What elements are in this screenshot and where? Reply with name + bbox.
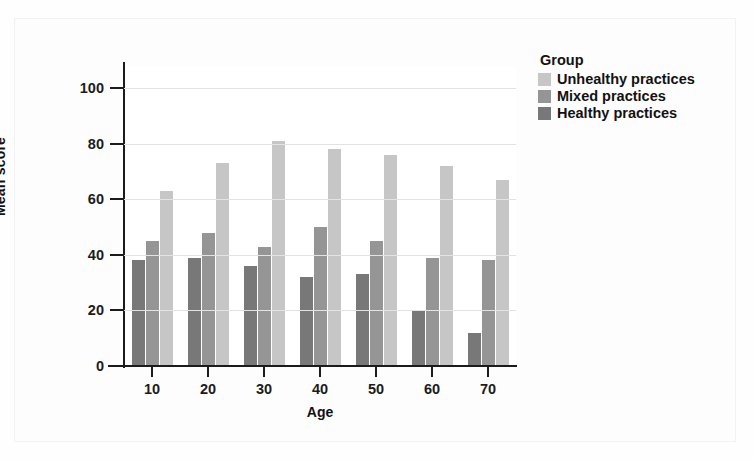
chart-figure: 100806040200 10203040506070 Mean score A… — [0, 0, 753, 462]
bar — [496, 180, 509, 366]
y-axis-line — [123, 62, 125, 368]
bar — [160, 191, 173, 366]
x-tick-label: 10 — [124, 381, 180, 397]
x-tick-label: 30 — [236, 381, 292, 397]
legend-swatch-icon — [538, 90, 551, 103]
bar — [384, 155, 397, 366]
y-tick-label: 40 — [52, 248, 104, 263]
gridline — [124, 255, 516, 256]
bar — [258, 247, 271, 366]
y-tick-mark — [110, 254, 124, 256]
y-tick-mark — [110, 143, 124, 145]
bar — [426, 258, 439, 366]
x-tick-label: 20 — [180, 381, 236, 397]
y-tick-mark — [110, 198, 124, 200]
bar — [440, 166, 453, 366]
x-axis-label: Age — [124, 404, 516, 420]
bar — [300, 277, 313, 366]
bar — [482, 260, 495, 366]
y-tick-label: 80 — [52, 137, 104, 152]
legend-title: Group — [540, 52, 738, 68]
bar — [328, 149, 341, 366]
x-tick-label: 50 — [348, 381, 404, 397]
bar — [370, 241, 383, 366]
legend-swatch-icon — [538, 107, 551, 120]
legend-item[interactable]: Mixed practices — [538, 88, 738, 104]
x-axis-line — [108, 365, 517, 367]
x-tick-mark — [151, 367, 153, 377]
legend: Group Unhealthy practicesMixed practices… — [538, 52, 738, 122]
y-axis-label: Mean score — [0, 137, 8, 216]
y-tick-label: 20 — [52, 303, 104, 318]
gridline — [124, 199, 516, 200]
x-tick-mark — [375, 367, 377, 377]
legend-swatch-icon — [538, 73, 551, 86]
bar — [314, 227, 327, 366]
legend-item-label: Unhealthy practices — [557, 71, 695, 87]
x-tick-mark — [263, 367, 265, 377]
bar — [356, 274, 369, 366]
gridline — [124, 88, 516, 89]
y-tick-label: 0 — [52, 359, 104, 374]
x-tick-mark — [207, 367, 209, 377]
y-tick-label: 60 — [52, 192, 104, 207]
bar — [244, 266, 257, 366]
x-tick-label: 60 — [404, 381, 460, 397]
y-tick-mark — [110, 309, 124, 311]
bar — [412, 310, 425, 366]
legend-item[interactable]: Unhealthy practices — [538, 71, 738, 87]
plot-area — [124, 66, 516, 366]
y-tick-label: 100 — [52, 81, 104, 96]
gridline — [124, 144, 516, 145]
legend-items: Unhealthy practicesMixed practicesHealth… — [538, 71, 738, 121]
bar — [272, 141, 285, 366]
bar — [132, 260, 145, 366]
legend-item-label: Healthy practices — [557, 105, 677, 121]
bar — [202, 233, 215, 366]
legend-item[interactable]: Healthy practices — [538, 105, 738, 121]
bar — [468, 333, 481, 366]
x-tick-mark — [487, 367, 489, 377]
bar — [188, 258, 201, 366]
x-tick-mark — [431, 367, 433, 377]
x-tick-label: 40 — [292, 381, 348, 397]
y-tick-mark — [110, 87, 124, 89]
gridline — [124, 310, 516, 311]
x-tick-mark — [319, 367, 321, 377]
legend-item-label: Mixed practices — [557, 88, 666, 104]
bar — [146, 241, 159, 366]
x-tick-label: 70 — [460, 381, 516, 397]
bar — [216, 163, 229, 366]
y-tick-mark — [110, 365, 124, 367]
